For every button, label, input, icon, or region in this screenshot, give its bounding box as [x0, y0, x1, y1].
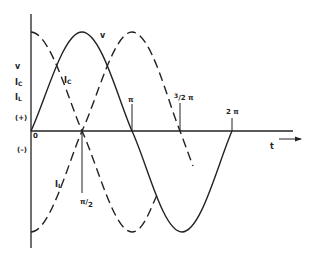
tick-label-two-pi: 2 π: [226, 108, 239, 116]
y-label-v: v: [15, 62, 21, 71]
y-label-il: IL: [15, 93, 22, 102]
curve-il: [31, 32, 193, 232]
tick-label-three-half-pi: 3/2 π: [174, 92, 194, 102]
ac-phase-diagram: v IC IL (+) (–) 0 v IC IL π/2 π 3/2 π 2 …: [0, 0, 318, 261]
curve-label-il: IL: [55, 180, 62, 189]
t-arrowhead-icon: [295, 137, 302, 142]
curve-label-ic: IC: [64, 76, 72, 85]
sign-negative: (–): [17, 146, 27, 154]
tick-label-half-pi: π/2: [80, 198, 93, 209]
curve-ic: [31, 32, 157, 232]
sign-positive: (+): [15, 114, 27, 122]
y-label-ic: IC: [15, 78, 23, 87]
curve-label-v: v: [100, 31, 106, 40]
curve-v: [31, 32, 232, 232]
origin-label: 0: [33, 132, 38, 140]
x-axis-label: t: [270, 142, 274, 151]
tick-label-pi: π: [128, 96, 134, 104]
